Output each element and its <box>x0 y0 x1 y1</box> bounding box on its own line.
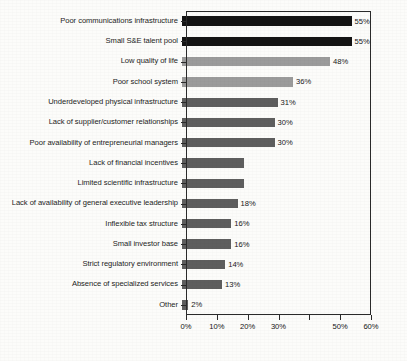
bar-zone: 55% <box>182 11 407 31</box>
bar-value-label: 14% <box>228 260 243 269</box>
bar-zone: 55% <box>182 31 407 51</box>
y-axis-tick <box>181 285 186 286</box>
x-axis-tick <box>248 315 249 320</box>
bar-value-label: 2% <box>191 300 202 309</box>
chart-row: Small investor base16% <box>0 234 407 254</box>
bar-value-label: 16% <box>234 240 249 249</box>
bar-value-label: 31% <box>281 98 296 107</box>
x-axis-tick <box>371 315 372 320</box>
bar-zone: 36% <box>182 72 407 92</box>
chart-row: Limited scientific infrastructure <box>0 173 407 193</box>
chart-row: Poor communications infrastructure55% <box>0 11 407 31</box>
bar <box>182 158 244 167</box>
bar <box>182 199 238 208</box>
bar <box>182 57 330 66</box>
chart-row: Underdeveloped physical infrastructure31… <box>0 92 407 112</box>
bar-zone: 30% <box>182 112 407 132</box>
bar <box>182 77 293 86</box>
bar-value-label: 13% <box>225 280 240 289</box>
y-axis-tick <box>181 224 186 225</box>
bar-zone: 16% <box>182 214 407 234</box>
bar-zone <box>182 153 407 173</box>
category-label: Lack of financial incentives <box>0 159 182 167</box>
bar-value-label: 30% <box>278 138 293 147</box>
bar-value-label: 30% <box>278 118 293 127</box>
category-label: Limited scientific infrastructure <box>0 179 182 187</box>
chart-row: Lack of supplier/customer relationships3… <box>0 112 407 132</box>
bar-zone: 16% <box>182 234 407 254</box>
chart-row: Poor availability of entrepreneurial man… <box>0 133 407 153</box>
bar-value-label: 48% <box>333 57 348 66</box>
bar-zone: 18% <box>182 193 407 213</box>
category-label: Poor communications infrastructure <box>0 17 182 25</box>
bar-value-label: 55% <box>355 17 370 26</box>
category-label: Inflexible tax structure <box>0 220 182 228</box>
chart-row: Strict regulatory environment14% <box>0 254 407 274</box>
bar-zone: 31% <box>182 92 407 112</box>
y-axis-tick <box>181 62 186 63</box>
category-label: Other <box>0 301 182 309</box>
y-axis-tick <box>181 82 186 83</box>
bar <box>182 118 275 127</box>
bar <box>182 37 352 46</box>
chart-row: Lack of financial incentives <box>0 153 407 173</box>
x-axis-tick-label: 50% <box>333 322 348 331</box>
y-axis-tick <box>181 102 186 103</box>
x-axis-tick-label: 10% <box>209 322 224 331</box>
bar-value-label: 55% <box>355 37 370 46</box>
category-label: Strict regulatory environment <box>0 260 182 268</box>
y-axis-tick <box>181 143 186 144</box>
y-axis-tick <box>181 41 186 42</box>
x-axis-tick-label: 60% <box>363 322 378 331</box>
bar <box>182 280 222 289</box>
bar <box>182 260 225 269</box>
y-axis-tick <box>181 305 186 306</box>
bar-value-label: 18% <box>241 199 256 208</box>
bar <box>182 179 244 188</box>
bar-zone: 30% <box>182 133 407 153</box>
bar-zone: 14% <box>182 254 407 274</box>
category-label: Small S&E talent pool <box>0 37 182 45</box>
category-label: Lack of supplier/customer relationships <box>0 118 182 126</box>
chart-row: Lack of availability of general executiv… <box>0 193 407 213</box>
chart-row: Absence of specialized services13% <box>0 274 407 294</box>
bar <box>182 16 352 25</box>
category-label: Poor school system <box>0 78 182 86</box>
bar-zone: 13% <box>182 274 407 294</box>
x-axis: 0%10%20%30%50%60% <box>0 315 407 345</box>
x-axis-tick <box>186 315 187 320</box>
bar-value-label: 36% <box>296 77 311 86</box>
category-label: Poor availability of entrepreneurial man… <box>0 139 182 147</box>
chart-row: Poor school system36% <box>0 72 407 92</box>
x-axis-tick-label: 20% <box>240 322 255 331</box>
category-label: Underdeveloped physical infrastructure <box>0 98 182 106</box>
chart-rows: Poor communications infrastructure55%Sma… <box>0 11 407 315</box>
bar-chart: Poor communications infrastructure55%Sma… <box>0 0 407 361</box>
bar-value-label: 16% <box>234 219 249 228</box>
category-label: Small investor base <box>0 240 182 248</box>
x-axis-tick-label: 0% <box>181 322 192 331</box>
chart-row: Inflexible tax structure16% <box>0 214 407 234</box>
chart-row: Small S&E talent pool55% <box>0 31 407 51</box>
bar <box>182 219 231 228</box>
category-label: Lack of availability of general executiv… <box>0 199 182 207</box>
x-axis-tick <box>279 315 280 320</box>
bar <box>182 239 231 248</box>
category-label: Low quality of life <box>0 57 182 65</box>
y-axis-spine <box>186 11 187 315</box>
category-label: Absence of specialized services <box>0 280 182 288</box>
bar <box>182 138 275 147</box>
y-axis-tick <box>181 21 186 22</box>
x-axis-tick <box>309 315 310 320</box>
y-axis-tick <box>181 183 186 184</box>
x-axis-tick <box>340 315 341 320</box>
y-axis-tick <box>181 163 186 164</box>
y-axis-tick <box>181 244 186 245</box>
bar-zone: 48% <box>182 52 407 72</box>
chart-row: Other2% <box>0 295 407 315</box>
bar-zone <box>182 173 407 193</box>
bar <box>182 98 278 107</box>
y-axis-tick <box>181 204 186 205</box>
y-axis-tick <box>181 264 186 265</box>
chart-row: Low quality of life48% <box>0 52 407 72</box>
